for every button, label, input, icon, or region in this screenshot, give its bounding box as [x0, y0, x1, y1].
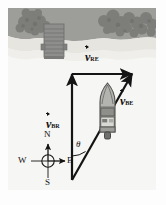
dock-piling-left	[41, 44, 45, 50]
v-be-symbol: v	[120, 94, 125, 108]
dock	[41, 24, 67, 59]
compass-label-west: W	[18, 155, 27, 165]
boat-cabin	[101, 108, 114, 116]
v-be-subscript: BE	[125, 100, 133, 106]
boat	[100, 83, 115, 139]
vector-label-v-be: vBE	[120, 95, 133, 107]
compass-rose: N S E W	[18, 132, 78, 190]
vector-label-v-re: vRE	[85, 51, 99, 63]
diagram-frame: vRE vBE vBR θ N S	[8, 8, 156, 190]
boat-outboard-motor	[105, 132, 111, 139]
v-br-subscript: BR	[51, 123, 59, 129]
v-re-subscript: RE	[90, 56, 98, 62]
boat-seat-right	[109, 119, 113, 122]
v-re-symbol: v	[85, 50, 90, 64]
boat-seat-left	[102, 119, 107, 122]
compass-label-east: E	[67, 155, 73, 165]
compass-label-north: N	[44, 129, 51, 139]
compass-label-south: S	[45, 177, 50, 187]
dock-piling-right	[63, 44, 67, 50]
figure-canvas: vRE vBE vBR θ N S	[0, 0, 166, 205]
boat-transom	[100, 127, 115, 132]
dock-end-plank	[44, 56, 64, 59]
